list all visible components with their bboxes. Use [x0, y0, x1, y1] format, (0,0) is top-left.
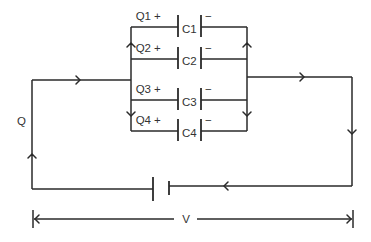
capacitor-branch-3: Q3 + C3 − [131, 83, 247, 110]
parallel-capacitor-circuit: Q1 + C1 − Q2 + C2 − Q3 + C3 − Q4 + C4 − [0, 0, 371, 242]
capacitor-branch-1: Q1 + C1 − [131, 10, 247, 37]
minus-sign: − [205, 83, 212, 95]
voltage-label: V [182, 213, 190, 225]
charge-label: Q3 [136, 83, 151, 95]
voltage-dimension: V [33, 210, 353, 228]
capacitor-branch-2: Q2 + C2 − [131, 42, 247, 69]
charge-label: Q1 [136, 10, 151, 22]
minus-sign: − [205, 114, 212, 126]
minus-sign: − [205, 42, 212, 54]
capacitor-label: C1 [182, 23, 197, 35]
minus-sign: − [205, 10, 212, 22]
charge-label: Q2 [136, 42, 151, 54]
plus-sign: + [154, 83, 161, 95]
plus-sign: + [154, 10, 161, 22]
plus-sign: + [154, 42, 161, 54]
source-charge-label: Q [17, 115, 26, 127]
battery-symbol [153, 177, 169, 201]
charge-label: Q4 [136, 114, 152, 126]
capacitor-branch-4: Q4 + C4 − [131, 114, 247, 141]
capacitor-label: C3 [182, 96, 197, 108]
capacitor-label: C4 [182, 127, 197, 139]
capacitor-label: C2 [182, 55, 197, 67]
plus-sign: + [154, 114, 161, 126]
